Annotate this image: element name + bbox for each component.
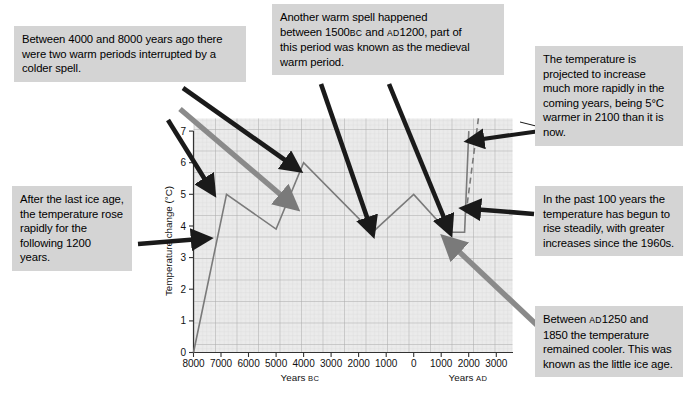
callout-past-100-years: In the past 100 years the temperature ha… <box>535 186 683 256</box>
x-tick-label: 4000 <box>292 358 315 369</box>
x-tick-label: 2000 <box>458 358 481 369</box>
svg-text:1: 1 <box>180 315 186 326</box>
figure-root: 0 1 2 3 4 5 6 7 <box>0 0 688 398</box>
plot-grid <box>194 119 513 353</box>
svg-text:7: 7 <box>180 126 186 137</box>
x-tick-label: 7000 <box>210 358 233 369</box>
callout-after-ice-age: After the last ice age, the temperature … <box>12 186 132 271</box>
x-tick-label: 8000 <box>182 358 205 369</box>
callout-warm-spell-line1: Another warm spell happened <box>280 10 496 25</box>
svg-text:0: 0 <box>180 347 186 358</box>
svg-text:3: 3 <box>180 252 186 263</box>
callout-little-ice-age-line1: Between AD1250 and <box>543 312 675 328</box>
x-tick-label: 6000 <box>237 358 260 369</box>
warm-spell-bc-smallcaps: BC <box>350 28 363 38</box>
callout-past-100-years-text: In the past 100 years the temperature ha… <box>543 192 675 250</box>
callout-warm-spell-line2: between 1500BC and AD1200, part of <box>280 25 496 41</box>
callout-warm-spell: Another warm spell happened between 1500… <box>272 4 504 75</box>
x-axis-tick-labels: 8000700060005000400030002000100001000200… <box>182 358 507 369</box>
little-ice-age-ad-smallcaps: AD <box>589 315 602 325</box>
callout-projection-text: The temperature is projected to increase… <box>543 52 675 140</box>
y-axis-title: Temperature change (°C) <box>163 186 174 296</box>
svg-text:4: 4 <box>180 221 186 232</box>
callout-little-ice-age-rest: 1850 the temperature remained cooler. Th… <box>543 328 675 372</box>
callout-warm-periods: Between 4000 and 8000 years ago there we… <box>14 26 246 82</box>
warm-spell-ad-smallcaps: AD <box>387 28 400 38</box>
x-axis-ticks <box>194 353 497 358</box>
x-axis-title-bc: Years BC <box>281 372 320 383</box>
warm-spell-l2-e: 1200, part of <box>400 26 462 38</box>
svg-text:6: 6 <box>180 157 186 168</box>
x-tick-label: 3000 <box>320 358 343 369</box>
callout-projection: The temperature is projected to increase… <box>535 46 683 146</box>
projection-leader-line <box>520 122 536 126</box>
warm-spell-l2-c: and <box>362 26 387 38</box>
callout-warm-spell-line3: this period was known as the medieval <box>280 40 496 55</box>
svg-text:2: 2 <box>180 284 186 295</box>
x-tick-label: 3000 <box>485 358 508 369</box>
x-tick-label: 1000 <box>430 358 453 369</box>
x-tick-label: 5000 <box>265 358 288 369</box>
little-ice-age-l1-a: Between <box>543 313 589 325</box>
warm-spell-l2-a: between 1500 <box>280 26 350 38</box>
callout-warm-spell-line4: warm period. <box>280 55 496 70</box>
x-tick-label: 0 <box>411 358 417 369</box>
callout-little-ice-age: Between AD1250 and 1850 the temperature … <box>535 306 683 377</box>
callout-warm-periods-text: Between 4000 and 8000 years ago there we… <box>22 32 238 76</box>
callout-after-ice-age-text: After the last ice age, the temperature … <box>20 192 124 265</box>
x-axis-title-ad: Years AD <box>449 372 488 383</box>
x-tick-label: 1000 <box>375 358 398 369</box>
little-ice-age-l1-c: 1250 and <box>602 313 648 325</box>
svg-text:5: 5 <box>180 189 186 200</box>
x-tick-label: 2000 <box>348 358 371 369</box>
